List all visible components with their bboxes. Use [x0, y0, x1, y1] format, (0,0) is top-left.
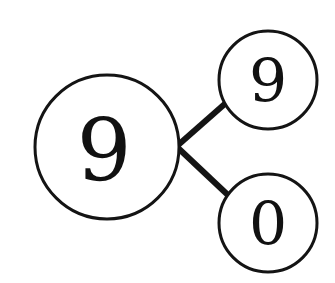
part-bottom-value: 0: [249, 189, 287, 259]
whole-value: 9: [77, 100, 132, 200]
connector-whole-to-top-part: [177, 102, 227, 146]
number-bond-figure: 9 9 0: [0, 0, 335, 283]
part-top-value: 9: [249, 46, 287, 116]
number-bond-canvas: 9 9 0: [0, 0, 335, 283]
connector-whole-to-bottom-part: [177, 147, 229, 196]
